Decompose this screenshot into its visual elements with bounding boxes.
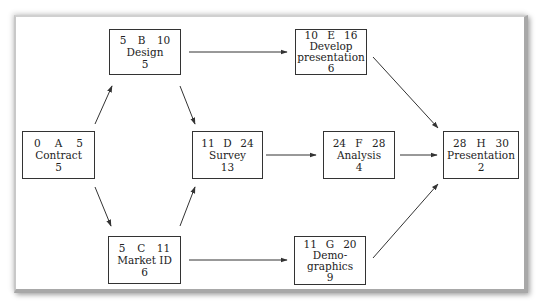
activity-duration: 5 <box>55 161 62 173</box>
node-header: 24 F 28 <box>324 137 394 149</box>
early-start: 5 <box>119 242 126 254</box>
activity-name: Design <box>127 46 164 58</box>
edge-a-b <box>95 86 112 124</box>
activity-id: F <box>355 137 362 149</box>
node-a-contract: 0 A 5 Contract 5 <box>22 131 95 179</box>
node-header: 5 C 11 <box>109 242 180 254</box>
edge-c-d <box>180 187 195 226</box>
edge-g-h <box>373 184 438 258</box>
activity-duration: 6 <box>328 63 335 74</box>
edge-a-c <box>95 187 111 226</box>
early-finish: 11 <box>157 242 170 254</box>
activity-name: Analysis <box>337 149 381 161</box>
activity-name: Presentation <box>447 149 515 161</box>
early-finish: 24 <box>240 137 253 149</box>
early-finish: 20 <box>343 239 356 250</box>
early-start: 24 <box>333 137 346 149</box>
node-e-develop-presentation: 10 E 16 Develop presentation 6 <box>295 29 367 75</box>
early-finish: 10 <box>157 34 170 46</box>
activity-name: Survey <box>209 149 246 161</box>
node-header: 5 B 10 <box>110 34 180 46</box>
activity-duration: 6 <box>141 266 148 278</box>
early-start: 5 <box>120 34 127 46</box>
activity-duration: 9 <box>327 272 334 283</box>
activity-id: A <box>55 137 63 149</box>
node-f-analysis: 24 F 28 Analysis 4 <box>323 131 395 179</box>
activity-id: D <box>223 137 231 149</box>
early-finish: 28 <box>372 137 385 149</box>
activity-duration: 13 <box>221 161 234 173</box>
activity-duration: 4 <box>356 161 363 173</box>
early-start: 11 <box>303 239 316 250</box>
early-start: 28 <box>453 137 466 149</box>
node-header: 11 G 20 <box>295 239 365 250</box>
node-header: 28 H 30 <box>444 137 518 149</box>
node-b-design: 5 B 10 Design 5 <box>109 29 181 75</box>
activity-duration: 5 <box>142 58 149 70</box>
activity-id: H <box>476 137 485 149</box>
early-finish: 5 <box>76 137 83 149</box>
activity-id: C <box>137 242 145 254</box>
early-start: 11 <box>201 137 214 149</box>
activity-duration: 2 <box>478 161 485 173</box>
activity-name: Market ID <box>117 254 172 266</box>
activity-id: G <box>326 239 334 250</box>
activity-name: Contract <box>35 149 82 161</box>
node-d-survey: 11 D 24 Survey 13 <box>192 131 263 179</box>
node-h-presentation: 28 H 30 Presentation 2 <box>443 131 519 179</box>
node-g-demographics: 11 G 20 Demo- graphics 9 <box>294 236 366 285</box>
node-header: 11 D 24 <box>193 137 262 149</box>
activity-name: Demo- graphics <box>307 250 353 272</box>
edge-b-d <box>180 86 195 124</box>
edge-e-h <box>373 57 438 128</box>
activity-name: Develop presentation <box>297 41 364 63</box>
node-c-market-id: 5 C 11 Market ID 6 <box>108 236 181 284</box>
early-start: 0 <box>34 137 41 149</box>
node-header: 0 A 5 <box>23 137 94 149</box>
activity-id: B <box>138 34 146 46</box>
early-finish: 30 <box>496 137 509 149</box>
